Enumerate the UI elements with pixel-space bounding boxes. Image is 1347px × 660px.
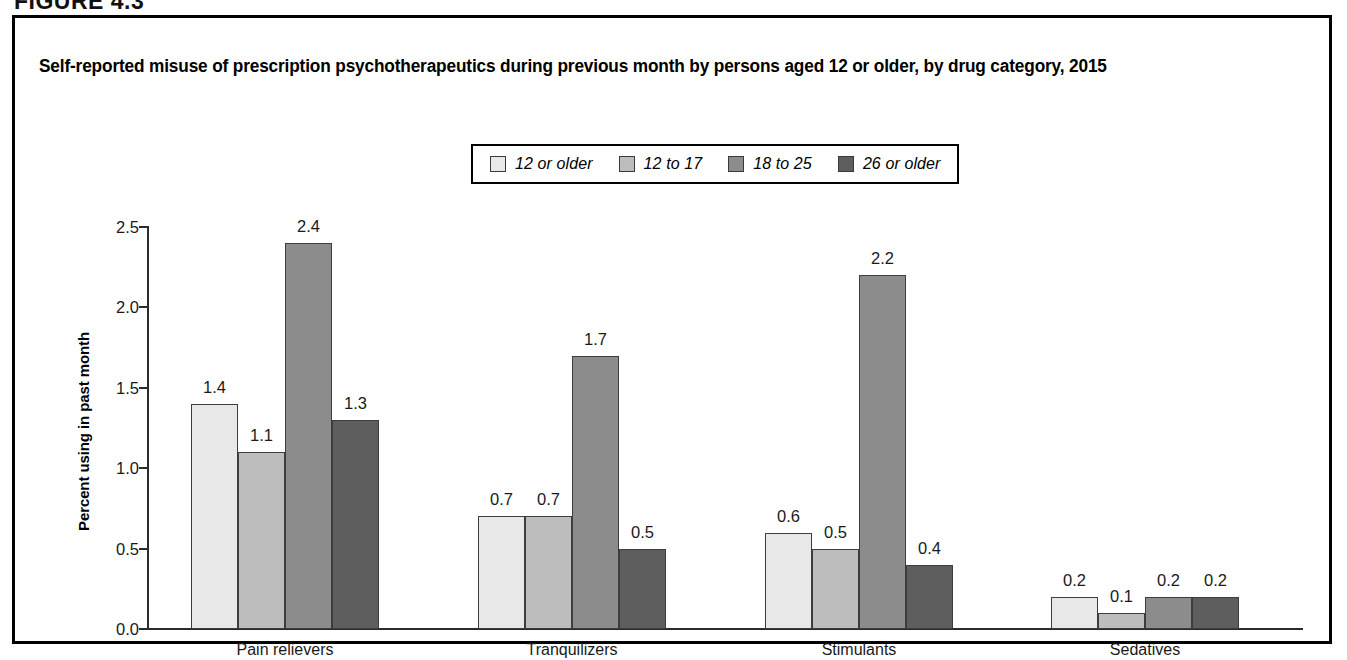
bar-value-label: 2.4 — [273, 217, 344, 236]
x-category-label: Pain relievers — [175, 641, 395, 659]
bar-value-label: 0.4 — [894, 539, 965, 558]
x-category-label: Stimulants — [749, 641, 969, 659]
bar — [1192, 597, 1239, 629]
y-tick-mark — [139, 306, 148, 308]
y-tick-label: 1.0 — [93, 459, 139, 478]
bar — [478, 516, 525, 629]
bar-value-label: 0.5 — [607, 523, 678, 542]
y-tick-mark — [139, 387, 148, 389]
y-tick-label: 1.5 — [93, 379, 139, 398]
bar-value-label: 1.7 — [560, 330, 631, 349]
y-tick-mark — [139, 467, 148, 469]
bar — [906, 565, 953, 629]
bar — [572, 356, 619, 629]
bar — [812, 549, 859, 629]
bar — [859, 275, 906, 629]
bar-value-label: 1.4 — [179, 378, 250, 397]
figure-frame: Self-reported misuse of prescription psy… — [12, 15, 1332, 644]
y-tick-mark — [139, 628, 148, 630]
y-tick-mark — [139, 226, 148, 228]
y-tick-mark — [139, 548, 148, 550]
y-tick-label: 2.0 — [93, 298, 139, 317]
bar-value-label: 2.2 — [847, 249, 918, 268]
plot-area: Percent using in past month 0.00.51.01.5… — [15, 18, 1347, 660]
y-tick-label: 0.0 — [93, 620, 139, 639]
bar — [1145, 597, 1192, 629]
x-category-label: Tranquilizers — [462, 641, 682, 659]
bar — [525, 516, 572, 629]
bar-value-label: 1.3 — [320, 394, 391, 413]
y-axis-line — [147, 226, 149, 630]
y-tick-label: 2.5 — [93, 218, 139, 237]
bar — [765, 533, 812, 629]
y-axis-title: Percent using in past month — [75, 302, 92, 562]
bar — [238, 452, 285, 629]
bar — [332, 420, 379, 629]
bar — [285, 243, 332, 629]
y-tick-label: 0.5 — [93, 540, 139, 559]
figure-number: FIGURE 4.3 — [14, 0, 144, 15]
bar — [619, 549, 666, 629]
bar-value-label: 0.2 — [1180, 571, 1251, 590]
x-category-label: Sedatives — [1035, 641, 1255, 659]
bar — [1098, 613, 1145, 629]
